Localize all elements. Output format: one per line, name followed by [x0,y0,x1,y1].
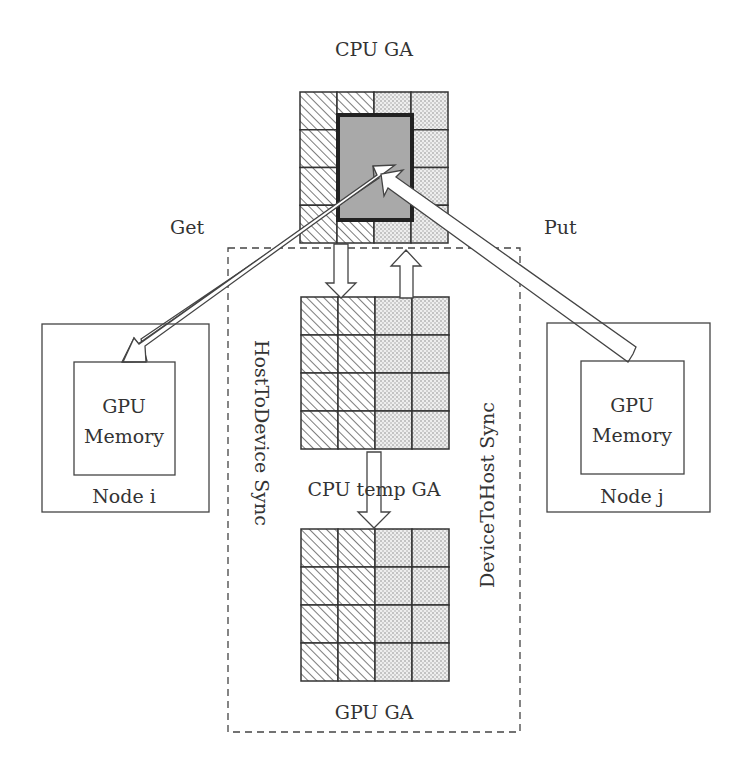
cpu-temp-ga-grid [301,297,449,449]
node-i-label: Node i [92,485,156,507]
grid-cell [411,92,448,130]
node-i: GPU Memory Node i [42,324,209,512]
grid-cell [375,373,412,411]
device-to-host-label: DeviceToHost Sync [476,402,498,588]
gpu-ga-label: GPU GA [335,701,414,723]
grid-cell [300,92,337,130]
node-j-gpu-label: GPU [610,394,654,416]
grid-cell [375,605,412,643]
grid-cell [338,411,375,449]
node-i-box [42,324,209,512]
grid-cell [301,411,338,449]
grid-cell [301,605,338,643]
grid-cell [338,529,375,567]
grid-cell [338,335,375,373]
node-i-memory-label: Memory [84,425,164,447]
grid-cell [300,130,337,168]
grid-cell [338,643,375,681]
gpu-ga-grid [301,529,449,681]
node-j-memory-label: Memory [592,424,672,446]
grid-cell [375,529,412,567]
put-label: Put [544,216,577,238]
grid-cell [412,605,449,643]
node-j-label: Node j [600,485,663,507]
node-i-gpu-memory-box [74,362,175,475]
grid-cell [375,643,412,681]
grid-cell [412,297,449,335]
get-label: Get [170,216,204,238]
host-to-device-arrow [326,244,356,298]
grid-cell [301,529,338,567]
node-i-gpu-label: GPU [102,395,146,417]
grid-cell [412,567,449,605]
grid-cell [375,335,412,373]
grid-cell [301,335,338,373]
grid-cell [375,297,412,335]
grid-cell [301,567,338,605]
grid-cell [412,373,449,411]
grid-cell [411,130,448,168]
grid-cell [301,297,338,335]
grid-cell [338,297,375,335]
cpu-temp-ga-label: CPU temp GA [307,478,440,500]
grid-cell [301,643,338,681]
grid-cell [338,567,375,605]
grid-cell [375,411,412,449]
grid-cell [412,411,449,449]
grid-cell [300,168,337,206]
grid-cell [375,567,412,605]
device-to-host-arrow [391,250,421,298]
diagram-canvas: CPU GA CPU temp GA GPU GA Get Put HostTo… [0,0,745,772]
host-to-device-label: HostToDevice Sync [251,340,273,526]
grid-cell [338,373,375,411]
node-j-gpu-memory-box [581,361,684,474]
grid-cell [412,643,449,681]
grid-cell [338,605,375,643]
cpu-ga-label: CPU GA [335,38,413,60]
grid-cell [301,373,338,411]
grid-cell [412,529,449,567]
grid-cell [412,335,449,373]
